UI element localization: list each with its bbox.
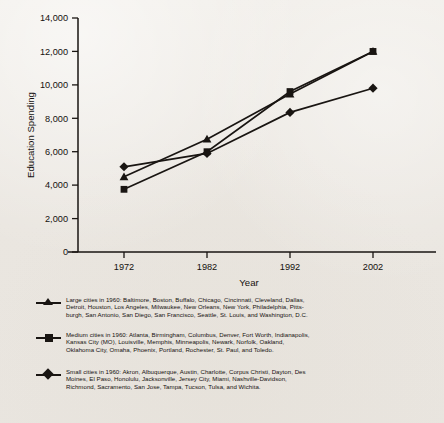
x-tick-label: 2002 xyxy=(363,262,383,272)
legend-entry-medium-cities: Medium cities in 1960: Atlanta, Birmingh… xyxy=(36,331,440,353)
data-point-triangle xyxy=(203,135,212,143)
data-point-square xyxy=(121,186,128,193)
triangle-marker-icon xyxy=(36,297,61,308)
line-chart: 14,000 12,000 10,000 8,000 6,000 4,000 2… xyxy=(0,0,444,288)
y-axis-title: Education Spending xyxy=(25,92,36,178)
data-point-square xyxy=(370,48,377,55)
x-tick-label: 1972 xyxy=(114,262,134,272)
x-tick-label: 1992 xyxy=(280,262,300,272)
series-line-square xyxy=(124,51,373,189)
series-layer xyxy=(119,47,377,193)
legend-line: Large cities in 1960: Baltimore, Boston,… xyxy=(66,296,308,303)
y-tick-marks xyxy=(72,18,78,252)
legend-line: burgh, San Antonio, San Diego, San Franc… xyxy=(66,311,308,318)
legend-line: Detroit, Houston, Los Angeles, Milwaukee… xyxy=(66,303,308,310)
y-tick-label: 14,000 xyxy=(40,13,68,23)
x-tick-label: 1982 xyxy=(197,262,217,272)
data-point-diamond xyxy=(368,84,377,93)
figure-container: 14,000 12,000 10,000 8,000 6,000 4,000 2… xyxy=(0,0,444,423)
chart-svg: 14,000 12,000 10,000 8,000 6,000 4,000 2… xyxy=(0,0,444,288)
data-point-square xyxy=(287,88,294,95)
diamond-marker-icon xyxy=(36,369,61,380)
legend-line: Richmond, Sacramento, San Jose, Tampa, T… xyxy=(66,383,306,390)
legend-line: Oklahoma City, Omaha, Phoenix, Portland,… xyxy=(66,346,310,353)
legend-line: Moines, El Paso, Honolulu, Jacksonville,… xyxy=(66,375,306,382)
legend-entry-large-cities: Large cities in 1960: Baltimore, Boston,… xyxy=(36,296,440,318)
y-tick-label: 2,000 xyxy=(45,214,68,224)
y-tick-label: 10,000 xyxy=(40,80,68,90)
legend-line: Medium cities in 1960: Atlanta, Birmingh… xyxy=(66,331,310,338)
legend-text-large-cities: Large cities in 1960: Baltimore, Boston,… xyxy=(61,296,308,318)
series-line-diamond xyxy=(124,88,373,167)
legend-text-medium-cities: Medium cities in 1960: Atlanta, Birmingh… xyxy=(61,331,310,353)
x-axis-title: Year xyxy=(239,277,259,288)
y-tick-label: 12,000 xyxy=(40,47,68,57)
y-tick-label: 4,000 xyxy=(45,180,68,190)
x-tick-marks xyxy=(124,252,373,258)
x-tick-labels: 1972 1982 1992 2002 xyxy=(114,262,383,272)
square-marker-icon xyxy=(36,332,61,343)
y-tick-labels: 14,000 12,000 10,000 8,000 6,000 4,000 2… xyxy=(40,13,68,257)
legend-line: Kansas City (MO), Louisville, Memphis, M… xyxy=(66,338,310,345)
y-tick-label: 8,000 xyxy=(45,114,68,124)
y-tick-label: 0 xyxy=(63,247,68,257)
legend-entry-small-cities: Small cities in 1960: Akron, Albuquerque… xyxy=(36,368,440,390)
data-point-diamond xyxy=(285,108,294,117)
data-point-diamond xyxy=(119,162,128,171)
chart-legend: Large cities in 1960: Baltimore, Boston,… xyxy=(0,291,444,423)
y-tick-label: 6,000 xyxy=(45,147,68,157)
legend-line: Small cities in 1960: Akron, Albuquerque… xyxy=(66,368,306,375)
legend-text-small-cities: Small cities in 1960: Akron, Albuquerque… xyxy=(61,368,306,390)
